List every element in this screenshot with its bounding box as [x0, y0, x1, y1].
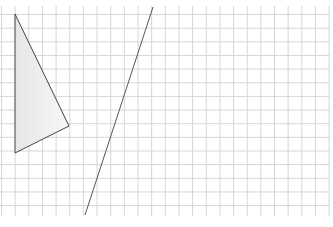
- grid-diagram: [0, 0, 333, 227]
- line-segment: [85, 7, 153, 215]
